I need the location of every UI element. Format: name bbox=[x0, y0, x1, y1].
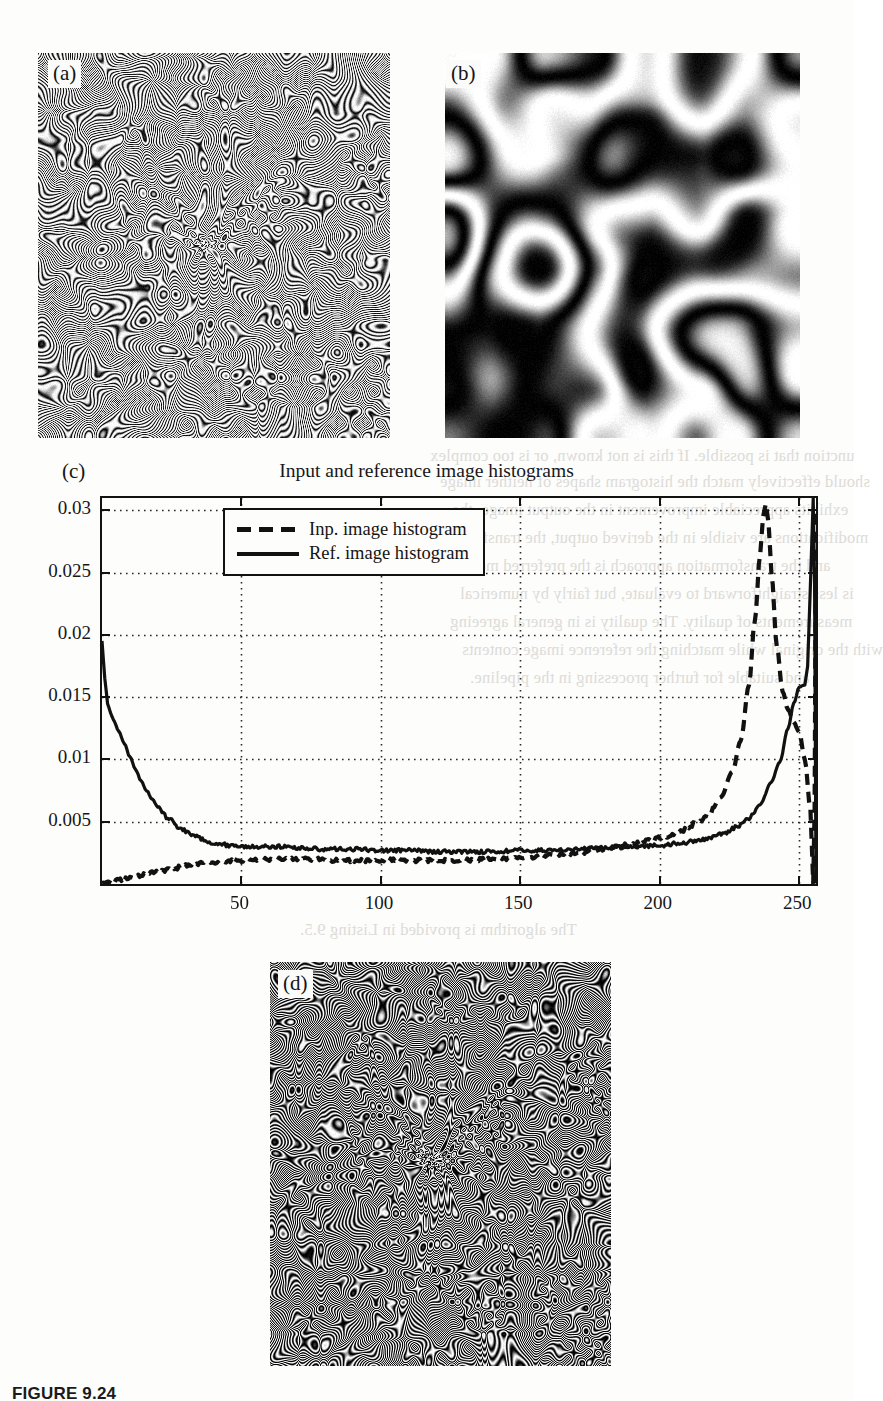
legend-label-reference: Ref. image histogram bbox=[309, 541, 469, 565]
x-tick-mark bbox=[240, 497, 242, 506]
x-tick-label: 200 bbox=[644, 892, 673, 914]
dashed-line-swatch-icon bbox=[237, 522, 299, 536]
x-tick-label: 100 bbox=[365, 892, 394, 914]
y-tick-mark bbox=[808, 572, 817, 574]
y-tick-mark bbox=[808, 821, 817, 823]
y-tick-mark bbox=[101, 696, 110, 698]
y-tick-mark bbox=[808, 634, 817, 636]
y-tick-mark bbox=[101, 572, 110, 574]
y-tick-label: 0.03 bbox=[58, 497, 91, 519]
y-tick-mark bbox=[101, 634, 110, 636]
x-tick-mark bbox=[798, 497, 800, 506]
panel-b-image bbox=[445, 53, 800, 438]
y-tick-mark bbox=[808, 509, 817, 511]
y-tick-mark bbox=[808, 758, 817, 760]
chart-title: Input and reference image histograms bbox=[0, 460, 853, 482]
legend-label-input: Inp. image histogram bbox=[309, 517, 467, 541]
y-tick-label: 0.025 bbox=[48, 560, 91, 582]
solid-line-swatch-icon bbox=[237, 547, 299, 561]
y-tick-mark bbox=[101, 821, 110, 823]
panel-c-label: (c) bbox=[62, 461, 85, 482]
y-tick-mark bbox=[101, 509, 110, 511]
x-tick-mark bbox=[659, 497, 661, 506]
y-tick-label: 0.005 bbox=[48, 809, 91, 831]
legend-item-reference: Ref. image histogram bbox=[237, 541, 469, 565]
panel-b-label: (b) bbox=[446, 60, 481, 88]
x-tick-label: 150 bbox=[504, 892, 533, 914]
y-tick-label: 0.02 bbox=[58, 622, 91, 644]
x-tick-mark bbox=[380, 497, 382, 506]
y-tick-mark bbox=[808, 696, 817, 698]
x-tick-label: 250 bbox=[783, 892, 812, 914]
histogram-chart: (c) Input and reference image histograms… bbox=[0, 452, 853, 952]
y-tick-mark bbox=[101, 758, 110, 760]
figure-caption: FIGURE 9.24 bbox=[12, 1384, 116, 1401]
blob-pattern-canvas-b bbox=[445, 53, 800, 438]
x-tick-mark bbox=[659, 876, 661, 885]
chart-legend: Inp. image histogram Ref. image histogra… bbox=[223, 508, 485, 576]
x-tick-mark bbox=[519, 497, 521, 506]
y-tick-label: 0.01 bbox=[58, 746, 91, 768]
x-tick-mark bbox=[240, 876, 242, 885]
fringe-pattern-canvas-d bbox=[270, 962, 611, 1366]
legend-item-input: Inp. image histogram bbox=[237, 517, 469, 541]
panel-d-label: (d) bbox=[278, 970, 313, 998]
panel-a-image bbox=[38, 53, 390, 438]
panel-a-label: (a) bbox=[48, 60, 81, 88]
x-tick-label: 50 bbox=[230, 892, 249, 914]
y-tick-label: 0.015 bbox=[48, 684, 91, 706]
x-tick-mark bbox=[380, 876, 382, 885]
fringe-pattern-canvas-a bbox=[38, 53, 390, 438]
panel-d-image bbox=[270, 962, 611, 1366]
x-tick-mark bbox=[798, 876, 800, 885]
x-tick-mark bbox=[519, 876, 521, 885]
